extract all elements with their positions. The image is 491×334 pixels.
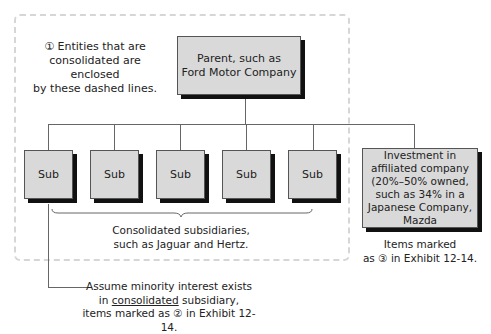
affiliated-line2: affiliated company	[368, 162, 472, 175]
parent-label-line2: Ford Motor Company	[181, 66, 296, 80]
affiliated-line6: Mazda	[368, 214, 472, 227]
subsidiary-label: Sub	[302, 168, 323, 182]
sub2-connector	[114, 124, 115, 150]
consolidated-caption: Consolidated subsidiaries, such as Jagua…	[100, 224, 262, 251]
minority-caption-underlined: consolidated	[112, 294, 179, 306]
affiliated-company-box: Investment in affiliated company (20%–50…	[362, 148, 478, 228]
subsidiary-box: Sub	[90, 150, 139, 199]
consolidated-caption-line2: such as Jaguar and Hertz.	[100, 238, 262, 252]
affiliated-caption: Items marked as ③ in Exhibit 12-14.	[360, 238, 480, 265]
sub4-connector	[246, 124, 247, 150]
consolidation-note-line1: ① Entities that are	[30, 40, 160, 54]
sub1-connector	[48, 124, 49, 150]
affiliated-line3: (20%–50% owned,	[368, 175, 472, 188]
minority-caption-prefix: in	[99, 294, 112, 306]
subsidiary-box: Sub	[288, 150, 337, 199]
minority-caption: Assume minority interest exists in conso…	[78, 280, 260, 334]
minority-caption-suffix: subsidiary,	[179, 294, 239, 306]
horizontal-bus	[48, 124, 415, 125]
affiliated-line1: Investment in	[368, 149, 472, 162]
minority-caption-line3: items marked as ② in Exhibit 12-14.	[78, 307, 260, 334]
sub5-connector	[313, 124, 314, 150]
parent-label-line1: Parent, such as	[181, 52, 296, 66]
affiliated-caption-line2: as ③ in Exhibit 12-14.	[360, 252, 480, 266]
minority-caption-line2: in consolidated subsidiary,	[78, 294, 260, 308]
sub3-connector	[180, 124, 181, 150]
subsidiary-box: Sub	[222, 150, 271, 199]
subsidiary-label: Sub	[170, 168, 191, 182]
consolidated-brace	[50, 207, 315, 219]
consolidation-note-line2: consolidated are enclosed	[30, 54, 160, 82]
parent-connector	[245, 99, 246, 124]
subsidiary-label: Sub	[38, 168, 59, 182]
affiliated-line5: Japanese Company,	[368, 201, 472, 214]
subsidiary-label: Sub	[236, 168, 257, 182]
parent-box: Parent, such as Ford Motor Company	[177, 36, 301, 95]
consolidation-note: ① Entities that are consolidated are enc…	[30, 40, 160, 96]
minority-caption-line1: Assume minority interest exists	[78, 280, 260, 294]
subsidiary-box: Sub	[24, 150, 73, 199]
consolidated-caption-line1: Consolidated subsidiaries,	[100, 224, 262, 238]
minority-callout-vertical	[48, 204, 49, 288]
affiliated-connector	[414, 124, 415, 148]
affiliated-caption-line1: Items marked	[360, 238, 480, 252]
subsidiary-box: Sub	[156, 150, 205, 199]
consolidation-note-line3: by these dashed lines.	[30, 82, 160, 96]
subsidiary-label: Sub	[104, 168, 125, 182]
affiliated-line4: such as 34% in a	[368, 188, 472, 201]
